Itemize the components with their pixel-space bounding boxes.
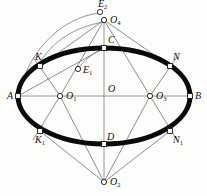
point-label-K: K	[35, 52, 42, 62]
point-label-A: A	[7, 91, 13, 101]
point-marker-O2	[101, 179, 106, 184]
point-label-N1: N1	[173, 135, 183, 145]
point-label-text-A: A	[7, 90, 13, 101]
point-label-sub-O1: 1	[73, 95, 76, 102]
point-marker-O4	[101, 17, 106, 22]
point-label-K1: K1	[35, 135, 45, 145]
point-label-text-O: O	[108, 83, 115, 94]
point-marker-K1	[38, 129, 43, 134]
point-marker-D	[102, 142, 107, 147]
point-label-sub-E1: 1	[89, 69, 92, 76]
point-label-E2: E2	[98, 0, 107, 9]
point-label-text-B: B	[195, 90, 201, 101]
point-label-text-K: K	[35, 51, 42, 62]
point-label-sub-N1: 1	[180, 139, 183, 146]
point-label-text-N: N	[173, 51, 180, 62]
point-label-text-D: D	[107, 131, 114, 142]
O4-to-O1	[60, 20, 104, 96]
point-label-O4: O4	[110, 15, 120, 25]
point-label-O2: O2	[110, 177, 120, 187]
point-marker-O3	[147, 93, 152, 98]
point-label-sub-O2: 2	[117, 181, 120, 188]
point-marker-B	[188, 94, 193, 99]
point-label-sub-E2: 2	[104, 3, 107, 10]
point-marker-K	[38, 64, 43, 69]
point-label-O: O	[108, 84, 115, 94]
point-label-E1: E1	[83, 65, 92, 75]
point-label-D: D	[107, 132, 114, 142]
point-marker-O1	[57, 93, 62, 98]
point-label-text-K1: K	[35, 134, 42, 145]
point-label-sub-O4: 4	[117, 19, 120, 26]
point-label-B: B	[195, 91, 201, 101]
point-label-sub-K1: 1	[42, 139, 45, 146]
point-label-N: N	[173, 52, 180, 62]
point-label-text-N1: N	[173, 134, 180, 145]
point-marker-E2	[97, 9, 102, 14]
point-marker-A	[16, 94, 21, 99]
point-marker-E1	[75, 66, 80, 71]
point-marker-N	[168, 64, 173, 69]
point-label-C: C	[108, 35, 115, 45]
point-marker-C	[102, 46, 107, 51]
point-label-O3: O3	[156, 91, 166, 101]
point-label-sub-O3: 3	[163, 95, 166, 102]
point-marker-N1	[168, 129, 173, 134]
point-label-O1: O1	[66, 91, 76, 101]
geometry-figure: ABCDOO1O2O3O4KK1NN1E1E2	[0, 0, 207, 196]
figure-canvas	[0, 0, 207, 196]
point-label-text-C: C	[108, 34, 115, 45]
